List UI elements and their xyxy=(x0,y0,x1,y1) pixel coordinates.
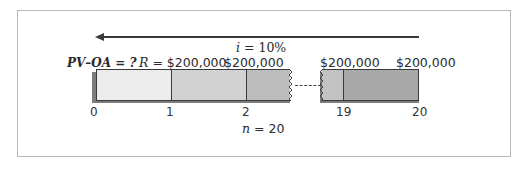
continuation-dashes xyxy=(295,85,321,86)
payment-amount: = $200,000 xyxy=(152,55,226,70)
interest-rate-symbol: i xyxy=(236,40,240,55)
periods-symbol: n xyxy=(242,121,250,136)
interest-rate-value: = 10% xyxy=(244,40,286,55)
tick-label-2: 2 xyxy=(242,105,250,119)
present-value-unknown-label: PV–OA = ? xyxy=(67,56,137,70)
period-segment-1 xyxy=(96,69,172,101)
periods-label: n = 20 xyxy=(242,122,284,136)
payment-symbol: R xyxy=(139,55,148,70)
period-segment-3-partial xyxy=(246,69,290,101)
periods-value: = 20 xyxy=(254,121,284,136)
payment-label-2: $200,000 xyxy=(224,56,284,70)
tick-label-19: 19 xyxy=(336,105,351,119)
discount-direction-arrow xyxy=(99,36,419,38)
payment-label-first: R = $200,000 xyxy=(139,56,227,70)
period-segment-20 xyxy=(343,69,419,101)
tick-label-0: 0 xyxy=(90,105,98,119)
payment-label-19: $200,000 xyxy=(320,56,380,70)
payment-label-20: $200,000 xyxy=(396,56,456,70)
tick-label-20: 20 xyxy=(412,105,427,119)
tick-label-1: 1 xyxy=(166,105,174,119)
interest-rate-label: i = 10% xyxy=(236,41,286,55)
period-segment-2 xyxy=(171,69,247,101)
